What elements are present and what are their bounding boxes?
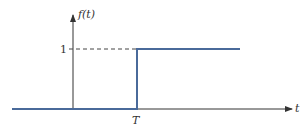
step-function-chart: f(t) t 1 T — [0, 0, 305, 130]
step-function-line — [12, 49, 240, 109]
x-axis-label: t — [295, 102, 300, 115]
y-axis-label: f(t) — [77, 8, 95, 21]
x-tick-label-T: T — [132, 114, 141, 127]
y-tick-label-1: 1 — [60, 43, 67, 56]
